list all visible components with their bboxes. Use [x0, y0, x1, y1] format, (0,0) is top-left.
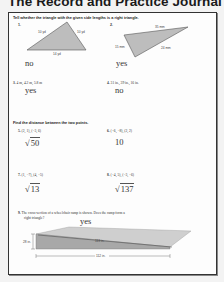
page-title: The Record and Practice Journal: [8, 0, 224, 9]
ramp-height-label: 28 in.: [23, 240, 31, 244]
ramp-hypotenuse-label: 113 in.: [95, 239, 104, 243]
ramp-base-label: 112 in.: [96, 254, 105, 258]
ramp-figure: 113 in. 28 in. 112 in.: [9, 13, 218, 276]
worksheet-frame: Tell whether the triangle with the given…: [8, 12, 217, 275]
